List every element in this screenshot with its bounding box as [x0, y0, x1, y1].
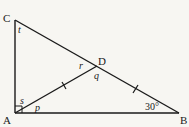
angle-label-p: p — [34, 102, 40, 113]
angle-label-s: s — [20, 95, 24, 106]
vertex-label-a: A — [3, 114, 11, 126]
segment-ad — [15, 66, 97, 113]
vertex-label-c: C — [3, 12, 10, 24]
angle-label-t: t — [18, 24, 21, 35]
vertex-label-b: B — [180, 114, 187, 126]
angle-label-b: 30° — [145, 101, 159, 112]
angle-label-q: q — [94, 70, 99, 81]
triangle-figure: C A B D t r q s p 30° — [0, 0, 189, 127]
vertex-label-d: D — [98, 55, 106, 67]
angle-label-r: r — [79, 60, 83, 71]
geometry-diagram: C A B D t r q s p 30° — [0, 0, 189, 127]
